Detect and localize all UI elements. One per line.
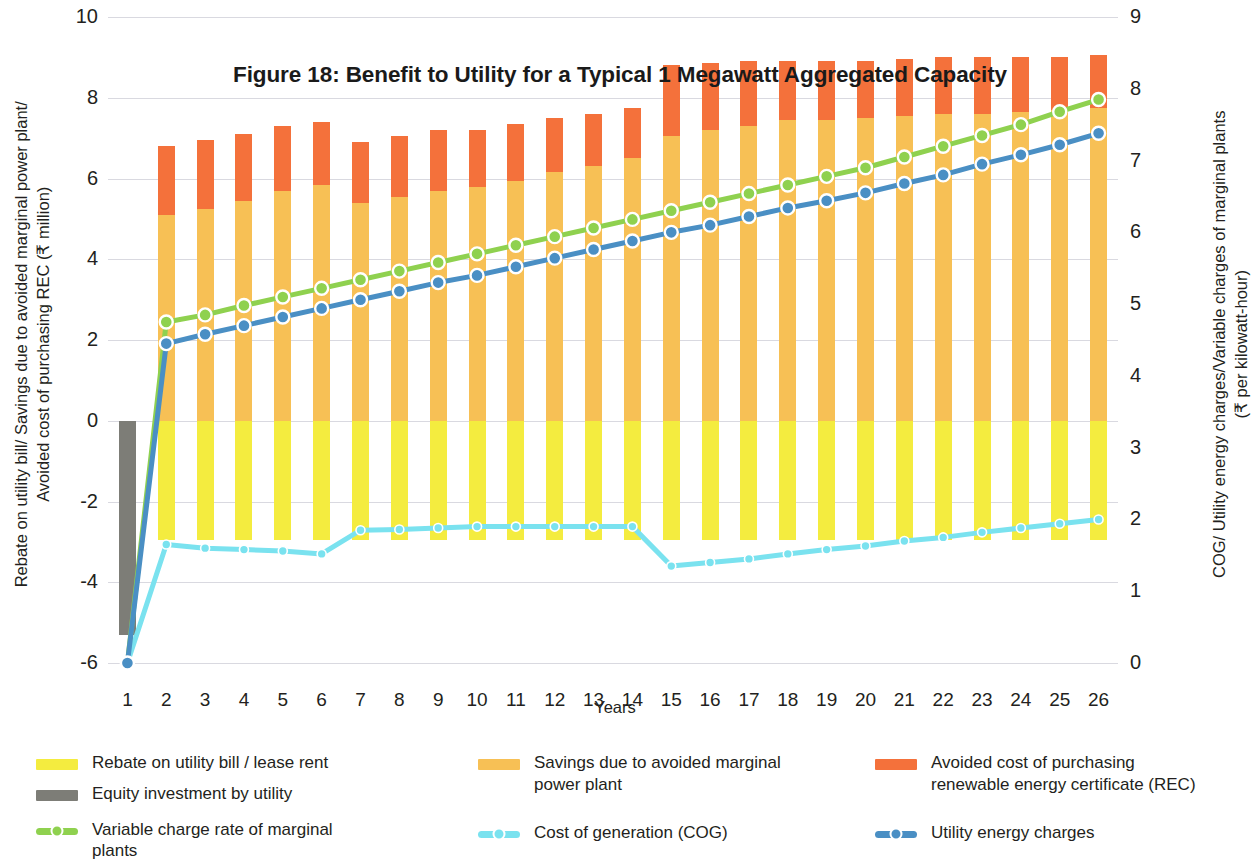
line-series (121, 127, 1105, 670)
legend-item-label: Equity investment by utility (92, 783, 292, 805)
line-marker (900, 536, 909, 545)
line-marker (589, 522, 598, 531)
y-axis-right-tick-label: 3 (1130, 437, 1190, 457)
line-marker (822, 545, 831, 554)
y-axis-left-tick-label: -6 (38, 652, 98, 672)
line-marker (626, 234, 639, 247)
legend-item[interactable]: Savings due to avoided marginal power pl… (478, 752, 814, 796)
line-marker (548, 252, 561, 265)
line-marker (820, 170, 833, 183)
line-marker (473, 522, 482, 531)
legend-item[interactable]: Rebate on utility bill / lease rent (36, 752, 372, 774)
legend-line-swatch (478, 831, 520, 838)
line-marker (704, 196, 717, 209)
line-marker (121, 657, 134, 670)
legend-line-swatch (36, 828, 78, 835)
y-axis-left-tick-label: 0 (38, 410, 98, 430)
legend-column: Avoided cost of purchasing renewable ene… (875, 752, 1211, 852)
line-marker (781, 178, 794, 191)
legend-item[interactable]: Equity investment by utility (36, 783, 372, 805)
line-marker (509, 239, 522, 252)
line-marker (239, 545, 248, 554)
line-path (127, 133, 1098, 663)
line-marker (1014, 118, 1027, 131)
y-axis-left-tick-label: -4 (38, 571, 98, 591)
line-marker (276, 311, 289, 324)
line-marker (432, 256, 445, 269)
line-series (121, 93, 1105, 669)
y-axis-right-tick-label: 6 (1130, 221, 1190, 241)
line-marker (704, 219, 717, 232)
line-marker (744, 554, 753, 563)
line-marker (395, 525, 404, 534)
line-marker (626, 213, 639, 226)
line-marker (742, 187, 755, 200)
legend-color-swatch (875, 759, 917, 770)
line-marker (237, 319, 250, 332)
y-axis-left-tick-label: 6 (38, 168, 98, 188)
legend-line-swatch (875, 831, 917, 838)
line-marker (162, 540, 171, 549)
line-marker (976, 129, 989, 142)
line-marker (898, 177, 911, 190)
line-marker (937, 140, 950, 153)
legend-item[interactable]: Variable charge rate of marginal plants (36, 819, 372, 862)
legend-item-label: Avoided cost of purchasing renewable ene… (931, 752, 1211, 796)
x-axis-title: Years (0, 698, 1230, 717)
line-marker (783, 549, 792, 558)
line-marker (820, 194, 833, 207)
line-marker (315, 302, 328, 315)
legend-item-label: Cost of generation (COG) (534, 822, 728, 844)
line-marker (667, 562, 676, 571)
y-axis-right-title: COG/ Utility energy charges/Variable cha… (1208, 14, 1252, 674)
y-axis-right-tick-label: 4 (1130, 365, 1190, 385)
legend-color-swatch (36, 759, 78, 770)
y-axis-left-tick-label: 8 (38, 87, 98, 107)
line-marker (160, 316, 173, 329)
line-marker (1014, 148, 1027, 161)
legend-item[interactable]: Cost of generation (COG) (478, 822, 814, 844)
y-axis-left-tick-label: 4 (38, 248, 98, 268)
gridline (108, 663, 1118, 664)
chart-legend: Rebate on utility bill / lease rentEquit… (0, 752, 1230, 862)
line-marker (354, 293, 367, 306)
legend-item[interactable]: Utility energy charges (875, 822, 1211, 844)
legend-item[interactable]: Avoided cost of purchasing renewable ene… (875, 752, 1211, 796)
line-marker (706, 558, 715, 567)
y-axis-right-tick-label: 7 (1130, 150, 1190, 170)
line-marker (976, 158, 989, 171)
line-marker (393, 285, 406, 298)
line-series-group (108, 17, 1118, 663)
line-marker (160, 337, 173, 350)
legend-color-swatch (36, 790, 78, 801)
line-marker (393, 265, 406, 278)
line-marker (781, 201, 794, 214)
y-axis-right-tick-label: 0 (1130, 652, 1190, 672)
line-marker (742, 210, 755, 223)
legend-column: Savings due to avoided marginal power pl… (478, 752, 814, 852)
y-axis-right-tick-label: 9 (1130, 6, 1190, 26)
line-marker (1053, 105, 1066, 118)
line-series (123, 515, 1103, 668)
legend-column: Rebate on utility bill / lease rentEquit… (36, 752, 372, 862)
line-marker (276, 290, 289, 303)
line-marker (978, 528, 987, 537)
line-marker (1053, 138, 1066, 151)
y-axis-right-tick-label: 8 (1130, 78, 1190, 98)
line-marker (1094, 515, 1103, 524)
y-axis-right-tick-label: 1 (1130, 580, 1190, 600)
line-marker (628, 522, 637, 531)
line-marker (201, 544, 210, 553)
line-marker (511, 522, 520, 531)
line-marker (861, 542, 870, 551)
line-marker (665, 204, 678, 217)
plot-area: 1086420-2-4-6 9876543210 123456789101112… (108, 17, 1118, 663)
line-marker (237, 299, 250, 312)
line-marker (859, 186, 872, 199)
y-axis-right-tick-label: 2 (1130, 508, 1190, 528)
legend-item-label: Savings due to avoided marginal power pl… (534, 752, 814, 796)
line-marker (937, 168, 950, 181)
line-marker (550, 522, 559, 531)
line-marker (1092, 93, 1105, 106)
